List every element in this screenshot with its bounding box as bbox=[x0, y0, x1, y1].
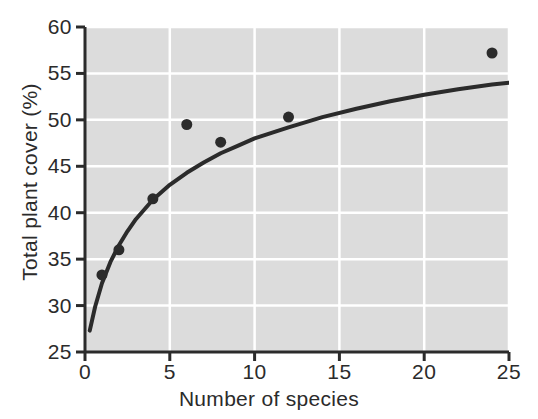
y-tick-label: 55 bbox=[48, 61, 72, 85]
data-point bbox=[96, 269, 107, 280]
y-tick-label: 50 bbox=[48, 108, 72, 132]
x-axis-tick-labels: 0510152025 bbox=[0, 360, 538, 390]
data-point bbox=[215, 137, 226, 148]
y-axis-title: Total plant cover (%) bbox=[18, 32, 42, 332]
x-tick-label: 10 bbox=[242, 360, 266, 384]
y-tick-label: 40 bbox=[48, 201, 72, 225]
x-tick-label: 0 bbox=[79, 360, 91, 384]
chart-figure: 2530354045505560 0510152025 Number of sp… bbox=[0, 0, 538, 419]
data-point bbox=[283, 112, 294, 123]
scatter-plot-canvas bbox=[0, 0, 538, 419]
y-axis-title-wrapper: Total plant cover (%) bbox=[18, 32, 42, 332]
x-tick-label: 20 bbox=[412, 360, 436, 384]
data-point bbox=[113, 244, 124, 255]
data-point bbox=[487, 48, 498, 59]
y-tick-label: 60 bbox=[48, 15, 72, 39]
y-tick-label: 35 bbox=[48, 247, 72, 271]
x-tick-label: 15 bbox=[327, 360, 351, 384]
x-tick-label: 5 bbox=[164, 360, 176, 384]
y-tick-label: 30 bbox=[48, 294, 72, 318]
x-axis-title: Number of species bbox=[0, 387, 538, 411]
data-point bbox=[181, 119, 192, 130]
plot-background bbox=[85, 27, 509, 352]
data-point bbox=[147, 193, 158, 204]
x-tick-label: 25 bbox=[497, 360, 521, 384]
y-tick-label: 45 bbox=[48, 154, 72, 178]
